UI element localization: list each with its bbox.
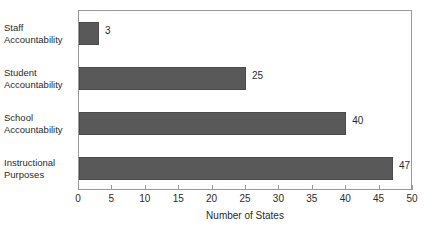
category-label-staff-accountability: Staff Accountability bbox=[4, 22, 78, 45]
bar-value-student-accountability: 25 bbox=[252, 70, 263, 82]
x-tick-mark bbox=[278, 185, 279, 190]
bar-staff-accountability bbox=[79, 22, 99, 45]
x-tick-label: 0 bbox=[63, 193, 93, 205]
x-tick-mark bbox=[145, 185, 146, 190]
category-label-school-accountability: School Accountability bbox=[4, 112, 78, 135]
bar-chart-figure: Staff Accountability Student Accountabil… bbox=[0, 0, 438, 239]
x-tick-mark bbox=[111, 185, 112, 190]
x-tick-mark bbox=[245, 185, 246, 190]
x-tick-label: 35 bbox=[297, 193, 327, 205]
bar-school-accountability bbox=[79, 112, 346, 135]
x-tick-label: 10 bbox=[130, 193, 160, 205]
bar-row: 25 bbox=[79, 56, 411, 101]
bar-value-staff-accountability: 3 bbox=[105, 25, 111, 37]
x-tick-label: 40 bbox=[330, 193, 360, 205]
x-tick-mark bbox=[312, 185, 313, 190]
bar-student-accountability bbox=[79, 67, 246, 90]
x-tick-mark bbox=[78, 185, 79, 190]
x-tick-label: 20 bbox=[197, 193, 227, 205]
x-tick-mark bbox=[178, 185, 179, 190]
category-axis-labels: Staff Accountability Student Accountabil… bbox=[4, 10, 78, 190]
plot-area: 3 25 40 47 bbox=[78, 10, 412, 190]
x-tick-mark bbox=[345, 185, 346, 190]
x-axis-title: Number of States bbox=[78, 210, 412, 222]
x-tick-label: 50 bbox=[397, 193, 427, 205]
bar-row: 3 bbox=[79, 11, 411, 56]
x-tick-label: 30 bbox=[263, 193, 293, 205]
x-tick-mark bbox=[212, 185, 213, 190]
category-label-instructional-purposes: Instructional Purposes bbox=[4, 157, 78, 180]
bar-value-school-accountability: 40 bbox=[352, 115, 363, 127]
bar-value-instructional-purposes: 47 bbox=[399, 160, 410, 172]
x-tick-mark bbox=[412, 185, 413, 190]
bar-instructional-purposes bbox=[79, 157, 393, 180]
x-tick-label: 15 bbox=[163, 193, 193, 205]
x-tick-label: 45 bbox=[364, 193, 394, 205]
bar-row: 40 bbox=[79, 101, 411, 146]
x-tick-label: 25 bbox=[230, 193, 260, 205]
category-label-student-accountability: Student Accountability bbox=[4, 67, 78, 90]
x-tick-mark bbox=[379, 185, 380, 190]
x-tick-label: 5 bbox=[96, 193, 126, 205]
